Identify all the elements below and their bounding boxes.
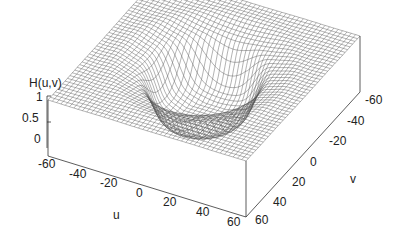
v-tick: 40	[273, 196, 286, 208]
z-tick-0.5: 0.5	[22, 112, 39, 124]
v-tick: 0	[310, 156, 317, 168]
u-tick: -40	[69, 168, 86, 180]
z-tick-1: 1	[36, 91, 43, 103]
u-tick: 20	[163, 196, 176, 208]
v-tick: -60	[365, 94, 382, 106]
u-tick: -20	[100, 177, 117, 189]
v-tick: -20	[329, 135, 346, 147]
z-tick-0: 0	[34, 133, 41, 145]
z-axis-label: H(u,v)	[29, 77, 62, 89]
u-tick: 40	[196, 206, 209, 218]
u-tick: -60	[38, 158, 55, 170]
v-axis-label: v	[350, 173, 356, 185]
u-tick: 0	[136, 187, 143, 199]
u-tick: 60	[227, 216, 240, 228]
v-tick: -40	[347, 115, 364, 127]
u-axis-label: u	[113, 209, 120, 221]
v-tick: 20	[292, 176, 305, 188]
v-tick: 60	[255, 214, 268, 226]
